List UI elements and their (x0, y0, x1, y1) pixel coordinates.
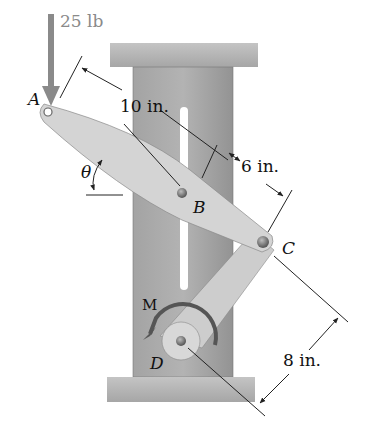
load-label: 25 lb (60, 13, 103, 30)
dim-BC-label: 6 in. (241, 158, 279, 175)
top-support (110, 43, 258, 67)
pin-A (44, 108, 52, 116)
point-A-label: A (28, 91, 40, 108)
point-B-label: B (193, 199, 206, 216)
dim-AB-label: 10 in. (120, 98, 169, 115)
pin-D (176, 336, 186, 346)
moment-label: M (142, 298, 157, 313)
dim-CD-label: 8 in. (283, 352, 321, 369)
point-D-label: D (150, 355, 164, 372)
mechanism-diagram: 25 lb A B C D θ M 10 in. 6 in. 8 in. (0, 0, 367, 427)
point-C-label: C (282, 240, 295, 257)
pin-B (177, 188, 187, 198)
theta-label: θ (81, 164, 91, 181)
bottom-support (107, 377, 255, 402)
load-arrow (42, 14, 60, 106)
pin-C (257, 236, 269, 248)
